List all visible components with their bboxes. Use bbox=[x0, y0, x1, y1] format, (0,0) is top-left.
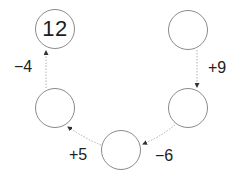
node-value: 12 bbox=[42, 18, 67, 40]
arrow-plus-5 bbox=[68, 127, 101, 145]
node-left-middle[interactable] bbox=[35, 88, 75, 128]
node-right-middle[interactable] bbox=[168, 88, 208, 128]
node-top-right[interactable] bbox=[168, 10, 208, 50]
op-label-minus-6: −6 bbox=[155, 148, 173, 164]
op-label-plus-9: +9 bbox=[208, 60, 226, 76]
node-bottom[interactable] bbox=[101, 130, 141, 170]
op-label-minus-4: −4 bbox=[14, 59, 32, 75]
op-label-plus-5: +5 bbox=[69, 147, 87, 163]
node-top-left: 12 bbox=[35, 9, 75, 49]
operation-chain-diagram: 12 +9 −6 +5 −4 bbox=[0, 0, 240, 180]
arrow-minus-6 bbox=[143, 125, 175, 144]
